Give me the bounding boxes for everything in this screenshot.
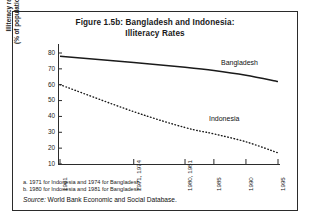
- y-axis-title-line-1: Illiteracy rate: [5, 0, 13, 60]
- y-tick-label: 60: [41, 82, 55, 88]
- y-tick-label: 40: [41, 113, 55, 119]
- series-label-bangladesh: Bangladesh: [221, 59, 258, 66]
- series-line-indonesia: [60, 85, 278, 153]
- source-label: Source:: [23, 196, 46, 203]
- y-axis-title-line-2: (% of population 15+): [13, 0, 21, 60]
- series-label-indonesia: Indonesia: [209, 115, 239, 122]
- y-tick-label: 80: [41, 50, 55, 56]
- y-tick-label: 20: [41, 145, 55, 151]
- y-tick-label: 10: [41, 161, 55, 167]
- source-text: World Bank Economic and Social Database.: [46, 196, 177, 203]
- page-title: Figure 1.5b: Bangladesh and Indonesia: I…: [13, 18, 297, 39]
- chart-title-line-1: Figure 1.5b: Bangladesh and Indonesia:: [13, 18, 297, 29]
- y-tick-label: 70: [41, 66, 55, 72]
- chart-title-line-2: Illiteracy Rates: [13, 29, 297, 40]
- source-note: Source: World Bank Economic and Social D…: [23, 195, 293, 204]
- x-axis-ticks: [60, 159, 278, 164]
- figure-frame: Figure 1.5b: Bangladesh and Indonesia: I…: [12, 11, 298, 211]
- footnote-a: a. 1971 for Indonesia and 1974 for Bangl…: [23, 179, 293, 186]
- y-tick-label: 30: [41, 129, 55, 135]
- footnote-b: b. 1980 for Indonesia and 1981 for Bangl…: [23, 186, 293, 193]
- y-axis-tick-labels: 1020304050607080: [39, 44, 55, 165]
- y-axis-title: Illiteracy rate (% of population 15+): [5, 0, 20, 60]
- y-tick-label: 50: [41, 97, 55, 103]
- footnotes: a. 1971 for Indonesia and 1974 for Bangl…: [23, 179, 293, 204]
